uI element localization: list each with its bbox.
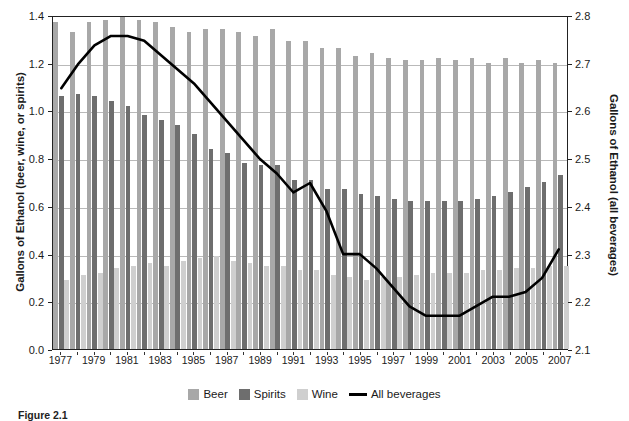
x-axis-tick-label: 1987: [210, 354, 244, 366]
y-axis-left-tick-mark: [48, 16, 52, 17]
figure-number: Figure 2.1: [18, 409, 68, 421]
x-axis: 1977197919811983198519871989199119931995…: [52, 352, 568, 368]
x-axis-tick-label: 2001: [443, 354, 477, 366]
x-axis-tick-label: 1981: [110, 354, 144, 366]
x-axis-tick-label: 2005: [509, 354, 543, 366]
x-axis-tick-label: 1995: [343, 354, 377, 366]
x-axis-tick-label: 2003: [476, 354, 510, 366]
y-axis-right-tick-mark: [568, 159, 572, 160]
legend-swatch-beer: [188, 389, 199, 400]
x-axis-tick-label: 1991: [276, 354, 310, 366]
y-axis-right-tick-mark: [568, 16, 572, 17]
y-axis-right-tick-label: 2.4: [575, 202, 611, 213]
y-axis-left-tick-label: 0.6: [8, 202, 44, 213]
y-axis-right-tick-mark: [568, 64, 572, 65]
legend-label: All beverages: [371, 388, 441, 400]
legend-label: Wine: [312, 388, 338, 400]
legend-swatch-spirits: [239, 389, 250, 400]
y-axis-right-tick-label: 2.3: [575, 250, 611, 261]
y-axis-left-tick-mark: [48, 111, 52, 112]
y-axis-left-tick-mark: [48, 255, 52, 256]
y-axis-left-tick-mark: [48, 207, 52, 208]
x-axis-tick-label: 2007: [543, 354, 577, 366]
legend-label: Beer: [203, 388, 227, 400]
y-axis-left-tick-mark: [48, 64, 52, 65]
legend-swatch-wine: [297, 389, 308, 400]
y-axis-left-tick-mark: [48, 350, 52, 351]
y-axis-right-tick-label: 2.8: [575, 11, 611, 22]
y-axis-left-tick-label: 0.4: [8, 250, 44, 261]
y-axis-right-tick-label: 2.5: [575, 154, 611, 165]
y-axis-right-tick-mark: [568, 207, 572, 208]
legend-swatch-line: [349, 393, 367, 396]
x-axis-tick-label: 1979: [77, 354, 111, 366]
y-axis-left-tick-label: 0.8: [8, 154, 44, 165]
legend-item[interactable]: All beverages: [349, 388, 441, 400]
line-series-layer: [53, 17, 567, 349]
plot-area: [52, 16, 568, 350]
x-axis-tick-label: 1985: [176, 354, 210, 366]
x-axis-tick-label: 1993: [310, 354, 344, 366]
y-axis-right-tick-label: 2.7: [575, 59, 611, 70]
y-axis-left-tick-mark: [48, 302, 52, 303]
figure-caption: Figure 2.1: [18, 409, 618, 421]
y-axis-right-tick-mark: [568, 111, 572, 112]
legend-item[interactable]: Spirits: [239, 388, 286, 400]
all-beverages-line: [61, 36, 558, 316]
x-axis-tick-label: 1977: [43, 354, 77, 366]
x-axis-tick-label: 1989: [243, 354, 277, 366]
y-axis-right-tick-mark: [568, 350, 572, 351]
y-axis-right-tick-mark: [568, 255, 572, 256]
y-axis-left-tick-label: 0.0: [8, 345, 44, 356]
y-axis-left-tick-mark: [48, 159, 52, 160]
x-axis-tick-label: 1999: [410, 354, 444, 366]
y-axis-left-tick-label: 0.2: [8, 297, 44, 308]
legend-label: Spirits: [254, 388, 286, 400]
y-axis-left-tick-label: 1.4: [8, 11, 44, 22]
y-axis-left-tick-label: 1.0: [8, 106, 44, 117]
y-axis-right-tick-label: 2.1: [575, 345, 611, 356]
y-axis-right-tick-label: 2.6: [575, 106, 611, 117]
chart-legend: BeerSpiritsWineAll beverages: [0, 385, 629, 403]
legend-item[interactable]: Beer: [188, 388, 227, 400]
y-axis-right-tick-mark: [568, 302, 572, 303]
x-axis-tick-label: 1983: [143, 354, 177, 366]
x-axis-tick-label: 1997: [376, 354, 410, 366]
legend-item[interactable]: Wine: [297, 388, 338, 400]
y-axis-right-tick-label: 2.2: [575, 297, 611, 308]
y-axis-left-tick-label: 1.2: [8, 59, 44, 70]
